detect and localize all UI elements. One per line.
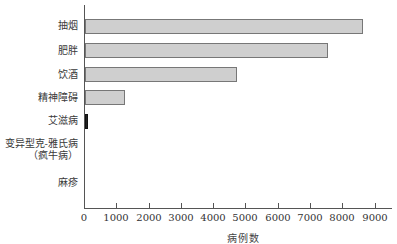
x-tick-label: 4000 [200,212,225,224]
category-label-vcjd-line2: （疯牛病） [5,150,78,162]
x-tick-label: 9000 [362,212,387,224]
category-label-vcjd-line1: 变异型克-雅氏病 [5,138,78,150]
x-tick [149,203,150,208]
category-label-drinking: 饮酒 [58,69,78,81]
bar-mental-disorder [85,90,125,105]
x-axis-title: 病例数 [227,230,260,244]
x-tick [278,203,279,208]
category-label-smoking: 抽烟 [58,20,78,32]
bar-drinking [85,67,237,82]
x-tick-label: 8000 [329,212,354,224]
category-label-aids: 艾滋病 [48,115,78,127]
bar-aids [85,114,88,129]
x-axis-line [84,208,392,209]
x-tick [375,203,376,208]
x-tick [213,203,214,208]
bar-obesity [85,43,328,58]
category-label-obesity: 肥胖 [58,45,78,57]
x-tick [245,203,246,208]
bar-smoking [85,19,363,34]
y-axis-line [84,5,85,209]
x-tick [310,203,311,208]
category-label-measles: 麻疹 [58,177,78,189]
horizontal-bar-chart: 抽烟 肥胖 饮酒 精神障碍 艾滋病 变异型克-雅氏病 （疯牛病） 麻疹 0100… [0,0,397,244]
category-label-vcjd: 变异型克-雅氏病 （疯牛病） [5,138,78,162]
category-label-mental-disorder: 精神障碍 [38,92,78,104]
x-tick-label: 6000 [265,212,290,224]
x-tick [84,203,85,208]
x-tick-label: 1000 [103,212,128,224]
x-tick-label: 3000 [168,212,193,224]
x-tick [181,203,182,208]
x-tick-label: 0 [81,212,87,224]
x-tick-label: 7000 [297,212,322,224]
x-tick-label: 2000 [136,212,161,224]
x-tick-label: 5000 [232,212,257,224]
x-tick [116,203,117,208]
x-tick [342,203,343,208]
